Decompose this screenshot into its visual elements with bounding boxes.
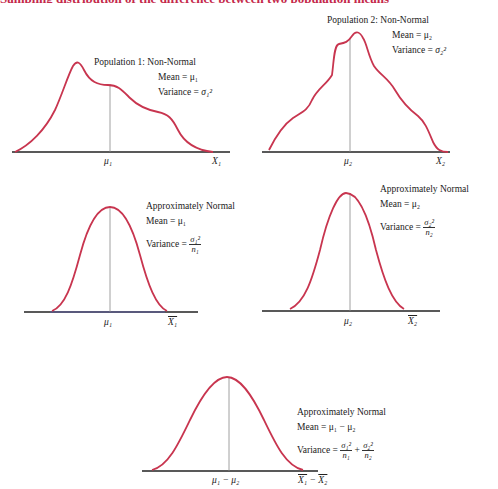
xbar2-mean-tick-label: μ₂	[344, 316, 352, 326]
pop2-title: Population 2: Non-Normal	[327, 14, 429, 26]
xbar1-mean: Mean = μ₁	[146, 215, 186, 227]
pop2-axis-label: X₂	[436, 156, 445, 166]
xbar1-mean-tick-label: μ₁	[104, 317, 112, 327]
xbar1-title: Approximately Normal	[146, 200, 235, 212]
xbar2-axis-label: X₂	[408, 316, 417, 326]
xbar2-plot	[262, 193, 440, 311]
diff-title: Approximately Normal	[297, 406, 386, 418]
pop1-axis-label: X₁	[212, 156, 221, 166]
pop2-variance: Variance = σ₂²	[392, 44, 446, 56]
pop1-variance: Variance = σ₁²	[158, 86, 212, 98]
distribution-diagram	[0, 0, 498, 489]
diff-mean-tick-label: μ₁ − μ₂	[212, 475, 239, 485]
pop1-title: Population 1: Non-Normal	[94, 56, 196, 68]
diff-mean: Mean = μ₁ − μ₂	[297, 421, 356, 433]
xbar1-variance: Variance = σ₁²n₁	[146, 235, 201, 254]
xbar1-axis-label: X₁	[168, 317, 177, 327]
pop2-mean-tick-label: μ₂	[344, 156, 352, 166]
pop2-mean: Mean = μ₂	[392, 29, 432, 41]
pop1-mean: Mean = μ₁	[158, 71, 198, 83]
xbar2-variance: Variance = σ₂²n₂	[380, 218, 435, 237]
diff-axis-label: X₁ − X₂	[298, 475, 327, 485]
pop1-mean-tick-label: μ₁	[104, 156, 112, 166]
xbar2-mean: Mean = μ₂	[380, 198, 420, 210]
diff-variance: Variance = σ₁²n₁ + σ₂²n₂	[297, 441, 374, 460]
xbar2-title: Approximately Normal	[380, 183, 469, 195]
difference-plot	[142, 377, 318, 471]
